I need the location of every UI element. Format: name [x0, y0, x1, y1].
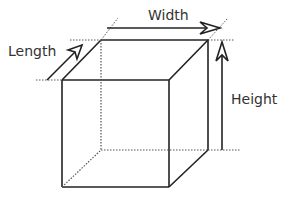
cube-diagram: Length Width Height	[0, 0, 290, 206]
back-face-visible-edges	[62, 40, 208, 187]
height-label: Height	[231, 91, 278, 107]
front-face	[62, 80, 169, 187]
height-arrow	[216, 42, 228, 150]
width-arrow	[107, 22, 220, 34]
length-label: Length	[8, 43, 56, 59]
extension-lines	[36, 18, 240, 150]
width-label: Width	[148, 7, 189, 23]
